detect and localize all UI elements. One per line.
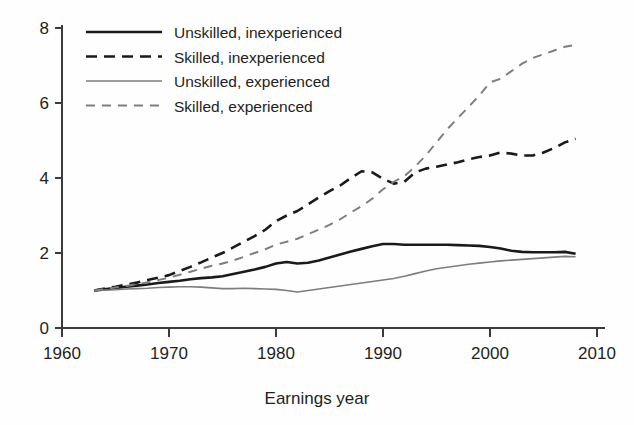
chart-container: 02468 196019701980199020002010 Unskilled… [0,0,634,425]
line-chart: 02468 196019701980199020002010 Unskilled… [0,0,634,425]
y-tick-label: 0 [40,319,49,338]
y-tick-label: 2 [40,244,49,263]
x-tick-label: 1980 [257,344,295,363]
x-tick-label: 1960 [43,344,81,363]
x-tick-label: 2010 [578,344,616,363]
x-tick-label: 1970 [150,344,188,363]
legend-label-0: Unskilled, inexperienced [174,24,342,41]
x-tick-label: 2000 [471,344,509,363]
legend-label-1: Skilled, inexperienced [174,49,325,66]
x-tick-label: 1990 [364,344,402,363]
y-tick-label: 4 [40,169,49,188]
legend-label-3: Skilled, experienced [174,98,313,115]
legend-label-2: Unskilled, experienced [174,73,330,90]
y-tick-label: 6 [40,94,49,113]
y-tick-label: 8 [40,19,49,38]
x-axis-title: Earnings year [265,389,370,408]
